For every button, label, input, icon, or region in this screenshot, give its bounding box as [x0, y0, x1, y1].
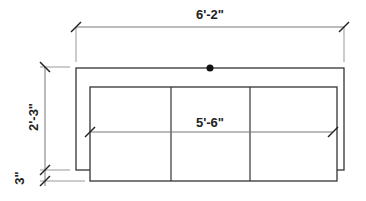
- sofa-seat-outline: [90, 87, 337, 181]
- depth-dimension: 2'-3" 3": [12, 62, 85, 186]
- seat-width-label: 5'-6": [196, 115, 224, 130]
- depth-label: 2'-3": [26, 103, 41, 131]
- overall-width-dimension: 6'-2": [71, 7, 349, 62]
- offset-label: 3": [12, 171, 27, 184]
- center-point-dot-icon: [207, 65, 214, 72]
- overall-width-label: 6'-2": [196, 7, 224, 22]
- sofa-plan-drawing: 6'-2" 5'-6" 2'-3" 3": [0, 0, 366, 201]
